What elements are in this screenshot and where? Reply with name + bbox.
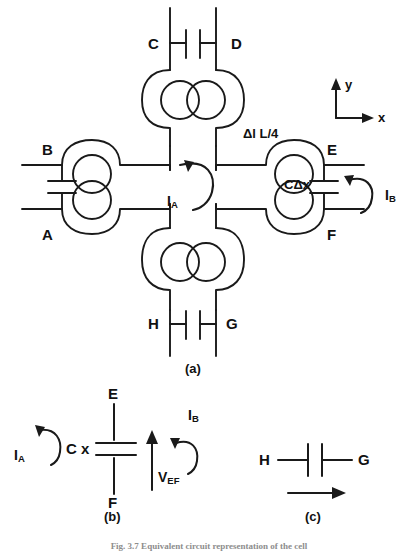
- node-label-d: D: [231, 36, 242, 51]
- panel-b-current-label-ia: IA: [14, 448, 25, 464]
- node-label-a: A: [42, 227, 53, 242]
- current-arrow-ia-arc: [180, 163, 213, 210]
- panel-b-current-label-ib: IB: [188, 408, 199, 424]
- panel-label-c: (c): [305, 510, 321, 523]
- panel-c-node-label-h: H: [259, 452, 270, 467]
- panel-c-direction-arrowhead: [332, 487, 346, 499]
- panel-b-voltage-main: V: [158, 469, 167, 485]
- panel-c-schematic: [278, 444, 352, 493]
- loop-circle-top-right: [187, 81, 225, 119]
- panel-b-current-ia-sub: A: [18, 453, 25, 464]
- panel-c-node-label-g: G: [358, 452, 370, 467]
- panel-b-node-label-f: F: [108, 495, 117, 510]
- delta-l-label: Δl L/4: [243, 127, 278, 140]
- panel-b-voltage-sub: EF: [167, 475, 179, 486]
- current-label-ia: IA: [167, 194, 178, 210]
- loop-circle-left-bottom: [73, 181, 111, 219]
- c-delta-x-label: CΔx: [284, 178, 310, 191]
- loop-wire-top-right: [216, 70, 244, 146]
- panel-label-a: (a): [185, 362, 201, 375]
- panel-b-ia-arrowhead: [35, 425, 45, 437]
- loop-wire-left-top: [62, 140, 144, 165]
- loop-wire-bottom-right: [216, 228, 244, 310]
- panel-b-vef-arrowhead: [146, 430, 158, 444]
- loop-wire-left-bottom: [62, 209, 144, 234]
- current-label-ia-sub: A: [171, 199, 178, 210]
- figure-canvas: [0, 0, 418, 554]
- hub-connect-right-top: [216, 165, 242, 170]
- panel-b-ia-arc: [40, 430, 60, 465]
- node-label-b: B: [42, 142, 53, 157]
- node-label-f: F: [327, 227, 336, 242]
- current-arrow-ib-head: [344, 175, 354, 186]
- axis-label-x: x: [378, 111, 385, 124]
- panel-label-b: (b): [104, 510, 121, 523]
- axis-y-arrowhead: [331, 78, 341, 90]
- loop-circle-bottom-right: [187, 243, 225, 281]
- loop-wire-bottom-left: [142, 228, 170, 310]
- node-label-c: C: [148, 36, 159, 51]
- node-label-e: E: [327, 142, 337, 157]
- hub-connect-left-top: [144, 165, 170, 170]
- panel-a-schematic: [22, 8, 364, 356]
- current-label-ib: IB: [385, 188, 396, 204]
- panel-b-current-ib-sub: B: [192, 413, 199, 424]
- panel-b-node-label-e: E: [108, 386, 118, 401]
- current-arrow-ib-arc: [349, 179, 372, 213]
- panel-b-ib-arrowhead: [170, 438, 180, 449]
- panel-b-cap-label: C x: [66, 441, 89, 456]
- panel-b-voltage-label: VEF: [158, 470, 180, 486]
- node-label-g: G: [226, 316, 238, 331]
- loop-wire-right-top: [242, 140, 324, 165]
- axis-label-y: y: [345, 78, 352, 91]
- current-arrow-ia-head: [184, 160, 194, 172]
- node-label-h: H: [148, 316, 159, 331]
- hub-connect-right-bottom: [216, 204, 242, 209]
- loop-wire-right-bottom: [242, 209, 324, 234]
- axis-x-arrowhead: [362, 113, 374, 123]
- current-arrow-ib: [349, 179, 372, 213]
- loop-wire-top-left: [142, 70, 170, 146]
- figure-caption: Fig. 3.7 Equivalent circuit representati…: [0, 541, 418, 554]
- current-label-ib-sub: B: [389, 193, 396, 204]
